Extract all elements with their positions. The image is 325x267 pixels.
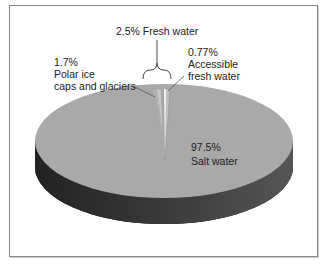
salt-pct-label: 97.5%	[191, 141, 221, 153]
pie-chart	[0, 0, 325, 267]
fresh-water-label: 2.5% Fresh water	[116, 25, 198, 37]
accessible-label-line2: fresh water	[188, 70, 240, 82]
polar-label-line2: caps and glaciers	[54, 80, 136, 92]
salt-water-label: Salt water	[191, 155, 238, 167]
fresh-water-brace	[143, 63, 171, 79]
accessible-label-line1: Accessible	[188, 58, 238, 70]
accessible-pct-label: 0.77%	[188, 46, 218, 58]
polar-label-line1: Polar ice	[54, 68, 95, 80]
polar-pct-label: 1.7%	[54, 56, 78, 68]
